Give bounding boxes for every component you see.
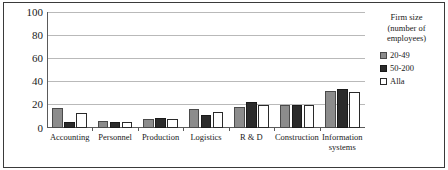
x-tick-mark bbox=[183, 128, 184, 131]
bar bbox=[304, 105, 315, 128]
legend-title-line: Firm size bbox=[372, 12, 441, 23]
bar-group bbox=[325, 12, 360, 128]
bar-group bbox=[234, 12, 269, 128]
bars-layer bbox=[47, 12, 365, 128]
bar bbox=[337, 89, 348, 128]
y-tick-label-0: 0 bbox=[38, 123, 44, 134]
legend-label: Alla bbox=[390, 77, 405, 86]
x-axis-label: Production bbox=[138, 132, 183, 142]
bar-group bbox=[98, 12, 133, 128]
bar bbox=[280, 105, 291, 128]
x-axis-label: Personnel bbox=[92, 132, 137, 142]
bar bbox=[155, 118, 166, 128]
bar-group bbox=[189, 12, 224, 128]
bar bbox=[258, 105, 269, 128]
bar bbox=[292, 105, 303, 128]
legend-swatch-icon bbox=[380, 78, 387, 85]
bar bbox=[98, 121, 109, 128]
legend-entries: 20-4950-200Alla bbox=[372, 51, 441, 86]
bar-group bbox=[143, 12, 178, 128]
bar bbox=[246, 102, 257, 128]
bar-chart-figure: 020406080100 AccountingPersonnelProducti… bbox=[0, 0, 448, 170]
legend-label: 20-49 bbox=[390, 51, 410, 60]
legend-item-50-200: 50-200 bbox=[380, 64, 441, 73]
x-label-line: Construction bbox=[274, 132, 319, 142]
x-axis-labels: AccountingPersonnelProductionLogisticsR … bbox=[47, 132, 365, 166]
x-label-line: Information bbox=[320, 132, 365, 142]
x-axis-label: Informationsystems bbox=[320, 132, 365, 152]
legend-title-line: employees) bbox=[372, 33, 441, 44]
y-tick-label-100: 100 bbox=[27, 7, 44, 18]
bar bbox=[110, 122, 121, 128]
bar bbox=[189, 109, 200, 128]
bar bbox=[64, 122, 75, 128]
bar bbox=[52, 108, 63, 128]
bar bbox=[122, 122, 133, 128]
legend-title: Firm size(number ofemployees) bbox=[372, 12, 441, 44]
legend-swatch-icon bbox=[380, 52, 387, 59]
bar bbox=[143, 119, 154, 128]
legend-item-Alla: Alla bbox=[380, 77, 441, 86]
x-axis-label: Construction bbox=[274, 132, 319, 142]
bar bbox=[325, 91, 336, 128]
bar bbox=[349, 92, 360, 128]
bar bbox=[167, 119, 178, 128]
x-tick-mark bbox=[274, 128, 275, 131]
legend-title-line: (number of bbox=[372, 23, 441, 34]
legend-label: 50-200 bbox=[390, 64, 414, 73]
bar-group bbox=[52, 12, 87, 128]
x-label-line: systems bbox=[320, 142, 365, 152]
x-label-line: Accounting bbox=[47, 132, 92, 142]
y-tick-label-40: 40 bbox=[32, 76, 43, 87]
bar bbox=[234, 107, 245, 128]
legend: Firm size(number ofemployees) 20-4950-20… bbox=[372, 12, 441, 90]
bar bbox=[201, 115, 212, 128]
x-tick-mark bbox=[92, 128, 93, 131]
bar-group bbox=[280, 12, 315, 128]
x-tick-mark bbox=[229, 128, 230, 131]
x-axis-label: R & D bbox=[229, 132, 274, 142]
legend-item-20-49: 20-49 bbox=[380, 51, 441, 60]
x-label-line: Personnel bbox=[92, 132, 137, 142]
y-tick-label-20: 20 bbox=[32, 99, 43, 110]
x-tick-mark bbox=[138, 128, 139, 131]
x-axis-label: Logistics bbox=[183, 132, 228, 142]
y-tick-label-80: 80 bbox=[32, 30, 43, 41]
x-label-line: Logistics bbox=[183, 132, 228, 142]
legend-swatch-icon bbox=[380, 65, 387, 72]
bar bbox=[76, 113, 87, 128]
x-label-line: R & D bbox=[229, 132, 274, 142]
bar bbox=[213, 112, 224, 128]
y-axis: 020406080100 bbox=[0, 12, 43, 128]
x-axis-label: Accounting bbox=[47, 132, 92, 142]
y-tick-label-60: 60 bbox=[32, 53, 43, 64]
x-tick-mark bbox=[320, 128, 321, 131]
x-label-line: Production bbox=[138, 132, 183, 142]
